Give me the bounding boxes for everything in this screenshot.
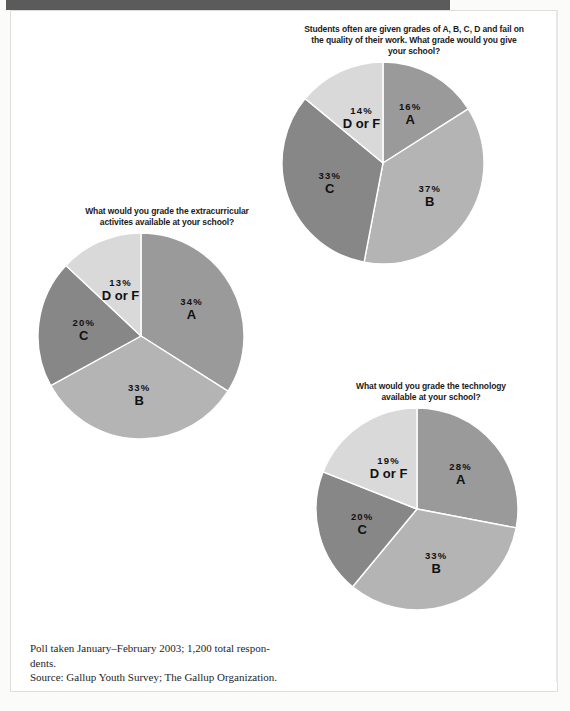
page-right-edge <box>556 12 558 682</box>
pie-chart-extracurricular: What would you grade the extracurricular… <box>37 206 297 440</box>
slice-category-label: D or F <box>102 288 140 303</box>
slice-category-label: A <box>187 307 197 322</box>
slice-category-label: C <box>358 522 368 537</box>
footnote-poll-line: Poll taken January–February 2003; 1,200 … <box>30 641 330 670</box>
slice-category-label: C <box>325 181 335 196</box>
pie-svg-extracurricular: 34%A33%B20%C13%D or F <box>37 232 245 440</box>
pie-svg-technology: 28%A33%B20%C19%D or F <box>315 407 519 611</box>
slice-percent-label: 19% <box>377 455 400 466</box>
pie-svg-overall: 16%A37%B33%C14%D or F <box>281 61 485 265</box>
slice-category-label: A <box>406 112 416 127</box>
chart-title-overall-grade: Students often are given grades of A, B,… <box>281 24 547 57</box>
slice-percent-label: 33% <box>425 550 448 561</box>
slice-percent-label: 13% <box>109 277 132 288</box>
slice-percent-label: 33% <box>128 382 151 393</box>
slice-category-label: B <box>432 561 441 576</box>
pie-canvas-overall-grade: 16%A37%B33%C14%D or F <box>281 61 547 265</box>
slice-percent-label: 33% <box>318 170 341 181</box>
chart-title-extracurricular: What would you grade the extracurricular… <box>37 206 297 228</box>
pie-chart-technology: What would you grade the technology avai… <box>315 381 547 611</box>
pie-canvas-technology: 28%A33%B20%C19%D or F <box>315 407 547 611</box>
slice-category-label: B <box>425 194 434 209</box>
slice-percent-label: 20% <box>351 511 374 522</box>
top-rule-decoration <box>6 0 450 10</box>
slice-percent-label: 34% <box>180 296 203 307</box>
footnote-source-line: Source: Gallup Youth Survey; The Gallup … <box>30 670 330 685</box>
slice-percent-label: 20% <box>72 317 95 328</box>
slice-category-label: D or F <box>370 466 408 481</box>
slice-percent-label: 28% <box>449 461 472 472</box>
pie-canvas-extracurricular: 34%A33%B20%C13%D or F <box>37 232 297 440</box>
footnote: Poll taken January–February 2003; 1,200 … <box>30 641 330 685</box>
chart-title-technology: What would you grade the technology avai… <box>315 381 547 403</box>
slice-percent-label: 16% <box>399 101 422 112</box>
slice-category-label: C <box>79 328 89 343</box>
slice-percent-label: 14% <box>350 105 373 116</box>
slice-category-label: D or F <box>343 116 381 131</box>
slice-percent-label: 37% <box>418 183 441 194</box>
slice-category-label: B <box>135 393 144 408</box>
pie-chart-overall-grade: Students often are given grades of A, B,… <box>281 24 547 265</box>
slice-category-label: A <box>456 472 466 487</box>
